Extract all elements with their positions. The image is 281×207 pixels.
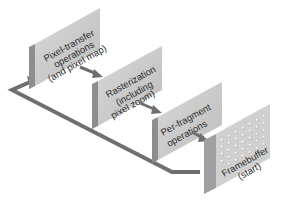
arrow-raster-to-fragment [140, 103, 162, 114]
arrow-transfer-to-raster [80, 67, 103, 78]
pipeline-diagram: Pixel-transfer operations (and pixel map… [0, 0, 281, 207]
rasterization-box: Rasterization (including pixel zoom) [92, 46, 162, 129]
